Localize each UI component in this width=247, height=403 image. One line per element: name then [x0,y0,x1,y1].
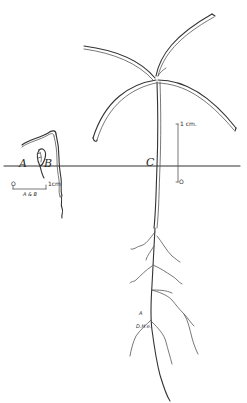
scale-c-unit: 1 cm. [180,121,197,127]
label-a: A [19,158,27,169]
label-root-a: A [139,311,142,316]
scale-bar-ab [13,185,46,189]
scale-bar-c [176,124,178,182]
label-c: C [146,157,154,168]
botanical-illustration: A B C O 1cm A & B 1 cm. O A D.H.e. [0,0,247,403]
illustration-drawing [0,0,247,403]
scale-ab-caption: A & B [23,192,37,197]
label-b: B [44,158,52,169]
scale-ab-unit: 1cm [48,181,61,187]
scale-ab-zero: O [11,181,16,187]
seedling-c [84,14,236,401]
scale-c-zero: O [179,179,184,185]
artist-signature: D.H.e. [136,324,151,329]
